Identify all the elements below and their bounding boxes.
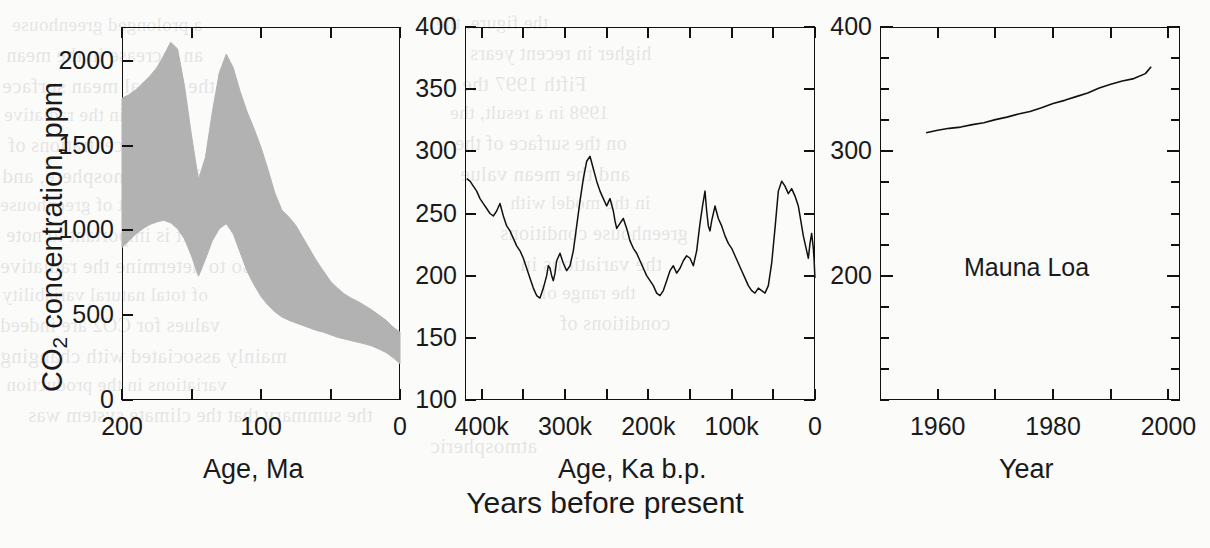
y-tick-label: 400 (808, 14, 872, 39)
axis-tick (880, 150, 893, 152)
axis-tick (880, 213, 889, 215)
axis-tick (994, 27, 996, 38)
axis-tick (880, 368, 889, 370)
axis-tick (1167, 150, 1180, 152)
axis-tick (880, 88, 889, 90)
axis-tick (880, 306, 889, 308)
axis-tick (1171, 181, 1180, 183)
axis-tick (880, 57, 889, 59)
axis-tick (1052, 389, 1054, 400)
axis-tick (994, 389, 996, 400)
axis-tick (880, 26, 893, 28)
axis-tick (880, 337, 889, 339)
y-tick-label: 300 (808, 138, 872, 163)
axis-tick (1167, 275, 1180, 277)
axis-tick (937, 27, 939, 38)
axis-tick (1171, 337, 1180, 339)
x-tick-label: 1960 (893, 414, 983, 439)
axis-tick (1171, 306, 1180, 308)
axis-tick (1052, 27, 1054, 38)
axis-tick (880, 275, 893, 277)
figure-co2-timescales: a prolonged greenhousean increase in the… (0, 0, 1210, 548)
axis-tick (1171, 88, 1180, 90)
x-axis-title-panel3: Year (999, 456, 1054, 483)
axis-tick (1110, 27, 1112, 38)
figure-caption: Years before present (0, 488, 1210, 518)
axis-tick (1171, 368, 1180, 370)
axis-tick (880, 181, 889, 183)
axis-tick (937, 389, 939, 400)
axis-tick (1167, 26, 1180, 28)
axis-tick (1171, 119, 1180, 121)
axis-tick (880, 244, 889, 246)
axis-tick (1110, 389, 1112, 400)
axis-tick (1171, 399, 1180, 401)
axis-tick (1167, 389, 1169, 400)
axis-tick (1171, 244, 1180, 246)
x-tick-label: 1980 (1008, 414, 1098, 439)
axis-tick (1171, 213, 1180, 215)
axis-tick (880, 119, 889, 121)
mauna-loa-co2-trace (926, 67, 1151, 133)
x-tick-label: 2000 (1123, 414, 1210, 439)
axis-tick (880, 399, 889, 401)
y-tick-label: 200 (808, 263, 872, 288)
axis-tick (1171, 57, 1180, 59)
axis-tick (1167, 27, 1169, 38)
mauna-loa-annotation: Mauna Loa (964, 255, 1089, 280)
